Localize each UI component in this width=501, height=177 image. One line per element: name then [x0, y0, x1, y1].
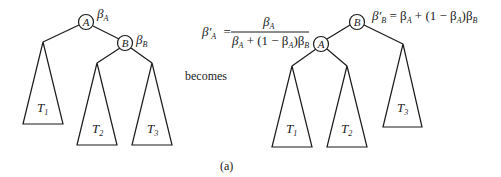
edge-b-t3: [131, 48, 152, 63]
subtree-t1-before-label: T1: [37, 100, 48, 117]
edge-a-t1: [43, 25, 79, 42]
subtree-t1-after-label: T1: [286, 121, 297, 138]
node-a-before-label: A: [82, 16, 90, 28]
node-b-before-label: B: [122, 37, 129, 49]
subtree-t3-before-label: T3: [147, 121, 158, 138]
node-a-after-label: A: [317, 38, 325, 50]
subtree-t2-after-label: T2: [341, 121, 352, 138]
figure-caption: (a): [220, 159, 233, 174]
weight-beta-b: βB: [136, 32, 147, 48]
edge-a-b: [93, 26, 119, 39]
formula-a-lhs: β′A =: [202, 24, 231, 40]
subtree-t3-after-label: T3: [397, 100, 408, 117]
node-b-after-label: B: [354, 16, 361, 28]
formula-a-denominator: βA + (1 − βA)βB: [232, 33, 309, 49]
formula-b: β′B = βA + (1 − βA)βB: [372, 8, 477, 24]
edge-a-t2: [327, 49, 347, 66]
edge-a-t1: [292, 49, 316, 66]
becomes-label: becomes: [185, 69, 227, 84]
edge-b-a: [327, 25, 350, 39]
edge-b-t3: [364, 25, 403, 44]
rotation-diagram: A B B A T1 T2 T3 T1 T2 T3: [0, 0, 501, 177]
formula-a-numerator: βA: [263, 14, 274, 30]
edge-b-t2: [97, 48, 120, 63]
subtree-t2-before-label: T2: [92, 121, 103, 138]
weight-beta-a: βA: [97, 6, 108, 22]
